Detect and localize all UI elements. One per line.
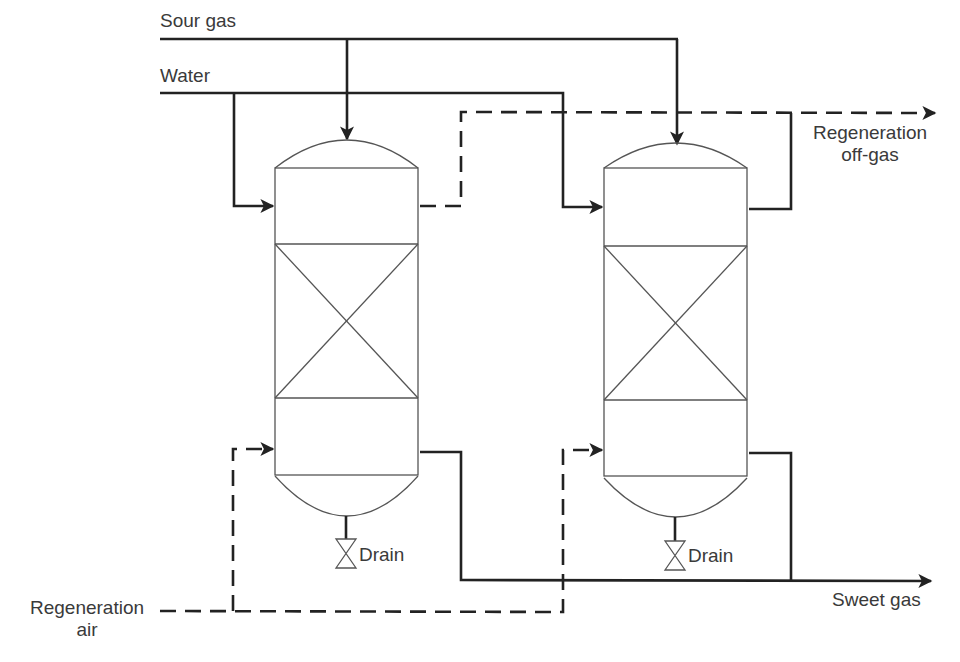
column-1: [275, 140, 418, 568]
column-2: [604, 143, 747, 570]
sour-gas-line: [160, 39, 678, 144]
drain-valve-1: [336, 539, 356, 568]
regeneration-offgas-label: Regeneration off-gas: [805, 122, 935, 166]
regeneration-air-label-line1: Regeneration: [20, 597, 154, 619]
regeneration-offgas-label-line1: Regeneration: [805, 122, 935, 144]
sour-gas-label: Sour gas: [160, 10, 236, 32]
regeneration-offgas-label-line2: off-gas: [805, 144, 935, 166]
water-label: Water: [160, 65, 210, 87]
regeneration-air-line: [160, 449, 602, 612]
process-flow-diagram: [0, 0, 960, 662]
drain-label-1: Drain: [359, 544, 404, 566]
sweet-gas-label: Sweet gas: [832, 589, 921, 611]
regeneration-air-label: Regeneration air: [20, 597, 154, 641]
water-line: [160, 93, 602, 207]
regeneration-air-label-line2: air: [20, 619, 154, 641]
drain-label-2: Drain: [688, 545, 733, 567]
drain-valve-2: [665, 541, 685, 570]
